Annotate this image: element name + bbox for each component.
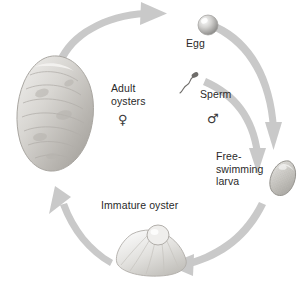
male-symbol: ♂ [207,112,219,125]
egg-sphere-icon [196,13,220,37]
stage-label-adult-oysters: Adult oysters [111,82,146,107]
stage-label-immature-oyster: Immature oyster [101,199,178,212]
stage-label-egg: Egg [186,37,205,50]
female-symbol: ♀ [118,113,128,126]
oyster-life-cycle-diagram: Egg Sperm Adult oysters Free- swimming l… [0,0,307,295]
stage-label-sperm: Sperm [200,88,231,101]
adult-oyster-shell-icon [12,53,100,175]
immature-oyster-shell-icon [112,222,190,278]
stage-label-free-swimming-larva: Free- swimming larva [216,150,263,188]
free-swimming-larva-icon [268,158,298,198]
arrow-immature-to-adult [49,186,113,266]
sperm-cell-icon [176,70,202,96]
